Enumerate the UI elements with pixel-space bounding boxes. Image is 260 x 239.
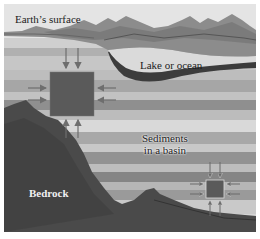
label-earths-surface: Earth’s surface bbox=[15, 14, 81, 25]
sediment-basin-diagram: Earth’s surface Lake or ocean Sediments … bbox=[4, 4, 256, 232]
small-block bbox=[206, 180, 224, 198]
label-sediments: Sediments in a basin bbox=[142, 132, 188, 156]
label-bedrock: Bedrock bbox=[29, 188, 69, 199]
label-sediments-line2: in a basin bbox=[142, 144, 188, 156]
label-lake-or-ocean: Lake or ocean bbox=[140, 60, 202, 71]
large-block bbox=[50, 72, 94, 116]
label-sediments-line1: Sediments bbox=[142, 132, 188, 144]
